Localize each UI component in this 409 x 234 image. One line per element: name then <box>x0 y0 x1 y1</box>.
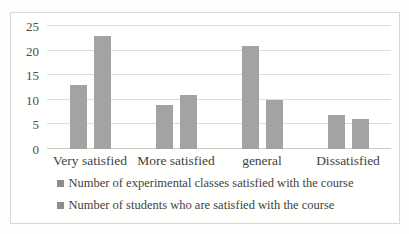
bar <box>352 119 369 149</box>
bar-groups <box>47 26 391 149</box>
legend-item-students: Number of students who are satisfied wit… <box>57 198 354 213</box>
bar <box>180 95 197 149</box>
bar-group <box>47 26 133 149</box>
chart-frame: 0510152025 Very satisfiedMore satisfiedg… <box>10 12 400 224</box>
x-category-label: general <box>219 154 305 169</box>
bar <box>70 85 87 149</box>
legend: Number of experimental classes satisfied… <box>11 176 399 213</box>
bar <box>242 46 259 149</box>
x-axis-labels: Very satisfiedMore satisfiedgeneralDissa… <box>47 154 391 169</box>
bar-group <box>219 26 305 149</box>
y-tick-label: 15 <box>13 69 39 82</box>
x-category-label: Dissatisfied <box>305 154 391 169</box>
legend-swatch-icon <box>57 180 64 187</box>
bar-chart-figure: 0510152025 Very satisfiedMore satisfiedg… <box>0 0 409 234</box>
bar-group <box>305 26 391 149</box>
plot-area <box>47 26 391 149</box>
y-tick-label: 25 <box>13 20 39 33</box>
legend-label: Number of experimental classes satisfied… <box>69 176 354 191</box>
y-tick-label: 5 <box>13 118 39 131</box>
y-tick-label: 0 <box>13 143 39 156</box>
y-tick-label: 10 <box>13 94 39 107</box>
y-tick-label: 20 <box>13 45 39 58</box>
legend-swatch-icon <box>57 202 64 209</box>
bar <box>156 105 173 149</box>
bar-group <box>133 26 219 149</box>
y-axis: 0510152025 <box>15 26 41 149</box>
bar <box>94 36 111 149</box>
bar <box>328 115 345 149</box>
x-category-label: Very satisfied <box>47 154 133 169</box>
legend-item-experimental-classes: Number of experimental classes satisfied… <box>57 176 354 191</box>
legend-label: Number of students who are satisfied wit… <box>69 198 335 213</box>
x-category-label: More satisfied <box>133 154 219 169</box>
bar <box>266 100 283 149</box>
